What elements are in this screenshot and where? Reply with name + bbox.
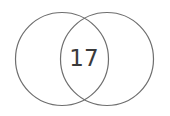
intersection-count: 17 bbox=[62, 43, 106, 73]
